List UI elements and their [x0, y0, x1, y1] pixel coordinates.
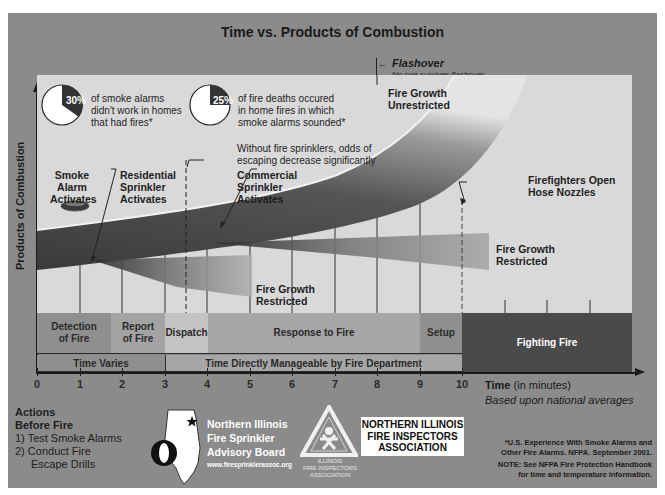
x-tick-9: 9: [410, 378, 430, 390]
time-row-manageable: Time Directly Manageable by Fire Departm…: [165, 355, 462, 372]
x-tick-1: 1: [70, 378, 90, 390]
flashover-arrow-icon: ←: [378, 60, 387, 69]
x-tick-10: 10: [452, 378, 472, 390]
chart-title: Time vs. Products of Combustion: [0, 24, 665, 40]
x-tick-2: 2: [112, 378, 132, 390]
annotation-growth-unrestricted: Fire Growth Unrestricted: [388, 87, 450, 111]
actions-block: Actions Before Fire 1) Test Smoke Alarms…: [15, 406, 122, 471]
phase-response: Response to Fire: [208, 313, 420, 354]
illinois-state-logo-icon: [150, 408, 206, 486]
phase-dispatch: Dispatch: [165, 313, 208, 354]
stat-percent-25: 25%: [213, 95, 233, 106]
annotation-growth-restricted-2: Fire Growth Restricted: [496, 243, 555, 267]
sprinkler-board-url: www.firesprinklerassoc.org: [207, 461, 292, 468]
annotation-no-sprinklers: Without fire sprinklers, odds of escapin…: [237, 143, 375, 167]
y-axis-label: Products of Combustion: [14, 142, 26, 270]
annotation-smoke-alarm: Smoke Alarm Activates: [50, 169, 94, 205]
x-axis-line: [37, 372, 637, 374]
stat-text-30: of smoke alarms didn't work in homes tha…: [91, 93, 182, 129]
flashover-label: Flashover: [392, 57, 444, 69]
ifia-triangle-logo-icon: [300, 405, 358, 457]
phase-detection: Detectionof Fire: [37, 313, 111, 354]
annotation-residential-sprinkler: Residential Sprinkler Activates: [120, 169, 176, 205]
stat-text-25: of fire deaths occured in home fires in …: [238, 93, 345, 129]
time-row-varies: Time Varies: [37, 355, 165, 372]
nifia-box: NORTHERN ILLINOIS FIRE INSPECTORS ASSOCI…: [361, 417, 464, 456]
x-axis-label: Time (in minutes): [485, 379, 571, 391]
x-tick-3: 3: [155, 378, 175, 390]
x-tick-7: 7: [325, 378, 345, 390]
phase-report: Reportof Fire: [111, 313, 165, 354]
nfpa-note: NOTE: See NFPA Fire Protection Handbook …: [470, 460, 652, 480]
x-tick-8: 8: [367, 378, 387, 390]
sprinkler-board-name: Northern Illinois Fire Sprinkler Advisor…: [207, 417, 288, 459]
phase-fighting-fire: Fighting Fire: [462, 313, 632, 372]
annotation-commercial-sprinkler: Commercial Sprinkler Activates: [237, 169, 297, 205]
x-axis-arrow-icon: [635, 368, 645, 376]
x-axis-sublabel: Based upon national averages: [485, 394, 634, 406]
phase-setup: Setup: [420, 313, 462, 354]
annotation-firefighters: Firefighters Open Hose Nozzles: [528, 174, 616, 198]
source-citation: *U.S. Experience With Smoke Alarms and O…: [470, 438, 652, 458]
x-tick-4: 4: [197, 378, 217, 390]
x-tick-6: 6: [282, 378, 302, 390]
x-tick-5: 5: [240, 378, 260, 390]
stat-percent-30: 30%: [66, 95, 86, 106]
x-tick-0: 0: [27, 378, 47, 390]
annotation-growth-restricted-1: Fire Growth Restricted: [256, 283, 315, 307]
ifia-name: ILLINOIS FIRE INSPECTORS ASSOCIATION: [298, 458, 362, 479]
flashover-marker: [376, 58, 377, 75]
